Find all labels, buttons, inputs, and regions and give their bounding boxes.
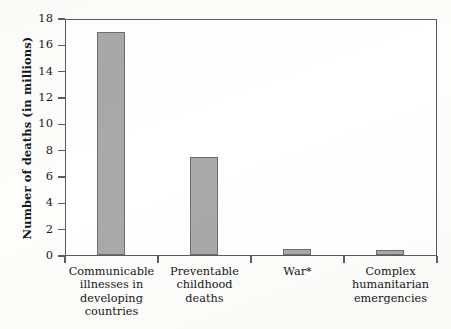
y-axis-tick-label: 0 bbox=[46, 248, 53, 262]
x-axis-label-line: countries bbox=[65, 305, 158, 318]
bar bbox=[283, 249, 311, 255]
x-axis-label-line: War* bbox=[251, 265, 344, 278]
y-axis-tick-mark bbox=[58, 150, 65, 152]
y-axis-tick-mark bbox=[58, 97, 65, 99]
x-axis-label-line: Complex bbox=[344, 265, 437, 278]
y-axis-tick-label: 10 bbox=[38, 116, 53, 130]
x-axis-label: Preventablechildhooddeaths bbox=[158, 265, 251, 305]
x-axis-tick-mark bbox=[343, 256, 345, 263]
x-axis-tick-mark bbox=[64, 256, 66, 263]
y-axis-tick-label: 16 bbox=[38, 37, 53, 51]
x-axis-label-line: Communicable bbox=[65, 265, 158, 278]
y-axis-title: Number of deaths (in millions) bbox=[20, 18, 34, 258]
y-axis-tick-label: 12 bbox=[38, 90, 53, 104]
x-axis-label-line: emergencies bbox=[344, 292, 437, 305]
x-axis-label-line: illnesses in bbox=[65, 278, 158, 291]
x-axis-label-line: humanitarian bbox=[344, 278, 437, 291]
x-axis-label-line: Preventable bbox=[158, 265, 251, 278]
x-axis-label: Communicableillnesses indevelopingcountr… bbox=[65, 265, 158, 319]
x-axis-tick-mark bbox=[250, 256, 252, 263]
y-axis-tick-mark bbox=[58, 124, 65, 126]
x-axis-label: War* bbox=[251, 265, 344, 278]
y-axis-tick-label: 4 bbox=[46, 195, 53, 209]
y-axis-tick-label: 2 bbox=[46, 222, 53, 236]
bar bbox=[376, 250, 404, 255]
x-axis-tick-mark bbox=[157, 256, 159, 263]
x-axis-label-line: deaths bbox=[158, 292, 251, 305]
y-axis-tick-label: 6 bbox=[46, 169, 53, 183]
x-axis-label-line: childhood bbox=[158, 278, 251, 291]
y-axis-tick-mark bbox=[58, 18, 65, 20]
x-axis-label-line: developing bbox=[65, 292, 158, 305]
bar-chart: Number of deaths (in millions) 181614121… bbox=[0, 0, 451, 329]
bar bbox=[190, 157, 218, 256]
y-axis-tick-mark bbox=[58, 229, 65, 231]
y-axis-tick-mark bbox=[58, 45, 65, 47]
y-axis-tick-label: 8 bbox=[46, 143, 53, 157]
x-axis-tick-mark bbox=[436, 256, 438, 263]
y-axis-tick-mark bbox=[58, 203, 65, 205]
y-axis-tick-label: 14 bbox=[38, 64, 53, 78]
bar bbox=[97, 32, 125, 256]
y-axis-tick-mark bbox=[58, 176, 65, 178]
y-axis-tick-mark bbox=[58, 71, 65, 73]
plot-area bbox=[65, 19, 437, 256]
y-axis-tick-label: 18 bbox=[38, 11, 53, 25]
x-axis-label: Complexhumanitarianemergencies bbox=[344, 265, 437, 305]
